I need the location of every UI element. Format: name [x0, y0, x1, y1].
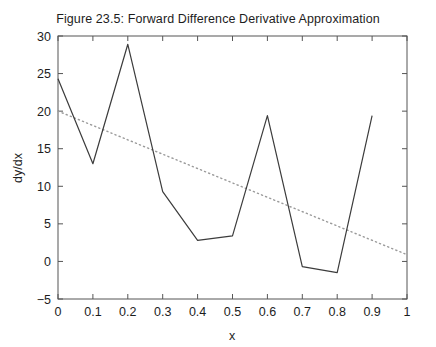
- x-axis-tick-labels: 00.10.20.30.40.50.60.70.80.91: [55, 305, 411, 319]
- axis-ticks: [58, 36, 407, 299]
- series-line-forward-difference: [58, 44, 372, 272]
- figure-container: Figure 23.5: Forward Difference Derivati…: [0, 0, 436, 347]
- y-axis-tick-label: 20: [37, 105, 51, 119]
- y-axis-tick-label: 30: [37, 30, 51, 44]
- y-axis-tick-label: 0: [44, 255, 51, 269]
- x-axis-title: x: [229, 329, 236, 343]
- x-axis-tick-label: 0.9: [363, 305, 380, 319]
- plot-frame: [58, 36, 407, 299]
- y-axis-tick-label: 5: [44, 217, 51, 231]
- x-axis-tick-label: 0.1: [84, 305, 101, 319]
- x-axis-tick-label: 0.6: [259, 305, 276, 319]
- x-axis-tick-label: 0.8: [329, 305, 346, 319]
- x-axis-tick-label: 0: [55, 305, 62, 319]
- x-axis-tick-label: 0.3: [154, 305, 171, 319]
- y-axis-tick-label: 25: [37, 67, 51, 81]
- y-axis-title: dy/dx: [11, 152, 25, 183]
- x-axis-tick-label: 0.7: [294, 305, 311, 319]
- x-axis-tick-label: 1: [404, 305, 411, 319]
- series-line-trend: [58, 111, 407, 255]
- y-axis-tick-labels: −5051015202530: [37, 30, 51, 307]
- x-axis-tick-label: 0.5: [224, 305, 241, 319]
- y-axis-tick-label: 10: [37, 180, 51, 194]
- y-axis-tick-label: −5: [37, 293, 51, 307]
- chart-plot: −5051015202530 00.10.20.30.40.50.60.70.8…: [0, 0, 436, 347]
- x-axis-tick-label: 0.2: [119, 305, 136, 319]
- x-axis-tick-label: 0.4: [189, 305, 206, 319]
- y-axis-tick-label: 15: [37, 142, 51, 156]
